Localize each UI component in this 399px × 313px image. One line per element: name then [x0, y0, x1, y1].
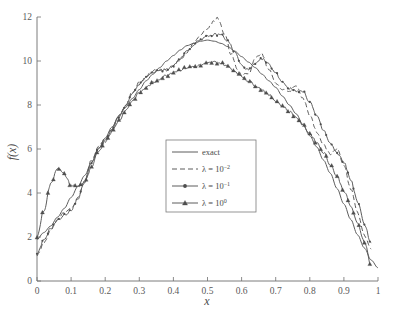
data-point-marker [145, 76, 147, 78]
x-tick-label: 0.2 [99, 286, 111, 296]
data-point-marker [347, 172, 349, 174]
y-axis-ticks: 024681012 [23, 12, 42, 286]
x-tick-label: 0.9 [338, 286, 350, 296]
data-point-marker [58, 218, 60, 220]
data-point-marker [46, 191, 50, 195]
data-point-marker [276, 72, 278, 74]
data-point-marker [358, 203, 360, 205]
data-point-marker [52, 224, 54, 226]
data-point-marker [270, 95, 274, 99]
data-point-marker [346, 198, 350, 202]
data-point-marker [362, 241, 366, 245]
y-tick-label: 4 [27, 188, 32, 198]
data-point-marker [265, 62, 267, 64]
data-point-marker [287, 87, 289, 89]
data-point-marker [156, 69, 158, 71]
data-point-marker [368, 262, 372, 266]
data-point-marker [232, 50, 234, 52]
data-point-marker [325, 134, 327, 136]
x-tick-label: 0 [35, 286, 40, 296]
data-point-marker [281, 81, 283, 83]
data-point-marker [123, 107, 125, 109]
data-point-marker [167, 69, 169, 71]
data-point-marker [177, 68, 181, 72]
legend-label-1: exact [202, 147, 221, 157]
data-point-marker [205, 35, 207, 37]
data-point-marker [309, 101, 311, 103]
legend-label-4: λ = 100 [202, 198, 227, 208]
x-axis-title: x [203, 294, 210, 308]
data-point-marker [352, 188, 354, 190]
figure-container: 00.10.20.30.40.50.60.70.80.91 024681012 … [0, 0, 399, 313]
data-point-marker [161, 70, 163, 72]
data-point-marker [227, 39, 229, 41]
chart-legend: exactλ = 10−2λ = 10−1λ = 100 [166, 140, 256, 212]
data-point-marker [188, 64, 192, 68]
data-point-marker [238, 60, 240, 62]
data-point-marker [254, 63, 256, 65]
data-point-marker [320, 123, 322, 125]
data-point-marker [363, 223, 365, 225]
data-point-marker [41, 240, 43, 242]
data-point-marker [134, 89, 136, 91]
x-tick-label: 0.7 [270, 286, 282, 296]
data-point-marker [303, 91, 305, 93]
data-point-marker [80, 191, 82, 193]
data-point-marker [369, 240, 371, 242]
data-point-marker [341, 188, 345, 192]
data-point-marker [324, 154, 328, 158]
data-point-marker [200, 38, 202, 40]
data-point-marker [51, 177, 55, 181]
data-point-marker [69, 209, 71, 211]
x-tick-label: 0.4 [167, 286, 179, 296]
data-point-marker [341, 161, 343, 163]
data-point-marker [331, 143, 333, 145]
y-tick-label: 10 [23, 56, 33, 66]
series-line-lambda-10-2 [37, 17, 371, 256]
data-point-marker [271, 67, 273, 69]
line-chart: 00.10.20.30.40.50.60.70.80.91 024681012 … [0, 0, 399, 313]
data-point-marker [319, 147, 323, 151]
data-point-marker [183, 52, 185, 54]
x-tick-label: 0.8 [304, 286, 316, 296]
data-point-marker [189, 48, 191, 50]
data-point-marker [221, 34, 223, 36]
series-2 [37, 17, 371, 256]
data-point-marker [63, 213, 65, 215]
x-tick-label: 0.3 [133, 286, 145, 296]
data-point-marker [140, 81, 142, 83]
data-point-marker [84, 178, 88, 182]
y-axis-title: f(x) [5, 144, 19, 161]
legend-sample-marker-3 [183, 184, 187, 188]
data-point-marker [210, 35, 212, 37]
data-point-marker [292, 89, 294, 91]
data-point-marker [150, 71, 152, 73]
data-point-marker [351, 211, 355, 215]
data-point-marker [221, 61, 225, 65]
data-point-marker [216, 35, 218, 37]
data-point-marker [90, 162, 92, 164]
data-point-marker [281, 104, 285, 108]
y-tick-label: 6 [27, 144, 32, 154]
data-point-marker [182, 65, 186, 69]
data-point-marker [336, 152, 338, 154]
data-point-marker [243, 67, 245, 69]
x-tick-label: 1 [376, 286, 381, 296]
data-point-marker [314, 114, 316, 116]
y-tick-label: 2 [27, 232, 32, 242]
data-point-marker [298, 91, 300, 93]
data-point-marker [74, 203, 76, 205]
y-tick-label: 12 [23, 12, 33, 22]
x-tick-label: 0.1 [65, 286, 77, 296]
data-point-marker [178, 58, 180, 60]
data-point-marker [260, 57, 262, 59]
data-point-marker [249, 67, 251, 69]
y-tick-label: 8 [27, 100, 32, 110]
data-point-marker [36, 253, 38, 255]
data-point-marker [194, 42, 196, 44]
x-tick-label: 0.6 [236, 286, 248, 296]
data-point-marker [172, 65, 174, 67]
data-point-marker [47, 232, 49, 234]
y-tick-label: 0 [27, 276, 32, 286]
data-point-marker [129, 96, 131, 98]
